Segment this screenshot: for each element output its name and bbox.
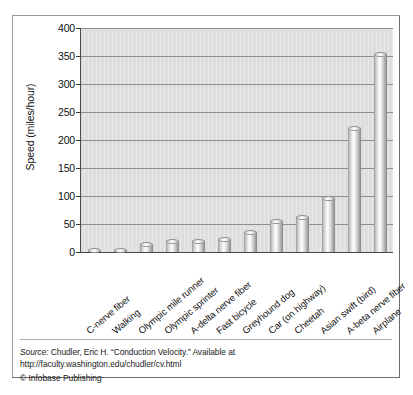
bar-slot xyxy=(367,28,393,252)
bar-slot xyxy=(263,28,289,252)
bar-slot xyxy=(211,28,237,252)
bar[interactable] xyxy=(244,232,257,252)
bar[interactable] xyxy=(322,198,335,252)
bar-top-cap xyxy=(322,196,335,201)
bar[interactable] xyxy=(374,54,387,252)
caption-strip-partial xyxy=(12,386,400,395)
bar-top-cap xyxy=(218,237,231,242)
source-label: Source: xyxy=(20,347,49,357)
bar-slot xyxy=(107,28,133,252)
y-axis-tick-labels: 400350300250200150100500 xyxy=(35,28,75,252)
bar[interactable] xyxy=(88,250,101,252)
bar-top-cap xyxy=(88,248,101,253)
bar-slot xyxy=(315,28,341,252)
bar[interactable] xyxy=(296,217,309,252)
bar-top-cap xyxy=(374,52,387,57)
bar-top-cap xyxy=(114,248,127,253)
bar-top-cap xyxy=(140,242,153,247)
y-tick-label-0: 0 xyxy=(35,246,75,258)
bar-top-cap xyxy=(348,126,361,131)
y-tick-label-50: 50 xyxy=(35,218,75,230)
plot-area xyxy=(80,28,393,253)
bar-top-cap xyxy=(270,219,283,224)
bar-chart: Speed (miles/hour) 400350300250200150100… xyxy=(13,16,399,336)
bar-slot xyxy=(133,28,159,252)
y-tick-label-250: 250 xyxy=(35,106,75,118)
y-tick-label-350: 350 xyxy=(35,50,75,62)
bar-slot xyxy=(237,28,263,252)
bar[interactable] xyxy=(218,240,231,252)
bar-top-cap xyxy=(296,215,309,220)
bar[interactable] xyxy=(270,221,283,252)
source-citation: Source: Chudler, Eric H. “Conduction Vel… xyxy=(20,346,392,370)
source-text: Chudler, Eric H. “Conduction Velocity.” … xyxy=(20,347,235,369)
x-axis-tick-labels: C-nerve fiberWalkingOlympic mile runnerO… xyxy=(80,254,392,336)
bar-top-cap xyxy=(244,230,257,235)
figure-footer: Source: Chudler, Eric H. “Conduction Vel… xyxy=(13,339,399,384)
bar-slot xyxy=(185,28,211,252)
bar[interactable] xyxy=(192,242,205,252)
y-tick-label-300: 300 xyxy=(35,78,75,90)
bar-top-cap xyxy=(166,239,179,244)
bar[interactable] xyxy=(348,129,361,252)
bar-top-cap xyxy=(192,239,205,244)
copyright-notice: © Infobase Publishing xyxy=(20,372,392,384)
footer-divider xyxy=(20,339,392,340)
bars-layer xyxy=(81,28,393,252)
bar[interactable] xyxy=(114,250,127,252)
bar-slot xyxy=(289,28,315,252)
bar[interactable] xyxy=(140,245,153,252)
figure-frame: Speed (miles/hour) 400350300250200150100… xyxy=(12,15,400,378)
y-tick-label-100: 100 xyxy=(35,190,75,202)
y-tick-label-200: 200 xyxy=(35,134,75,146)
bar-slot xyxy=(81,28,107,252)
bar-slot xyxy=(159,28,185,252)
bar-slot xyxy=(341,28,367,252)
bar[interactable] xyxy=(166,242,179,252)
y-tick-label-400: 400 xyxy=(35,22,75,34)
y-tick-label-150: 150 xyxy=(35,162,75,174)
